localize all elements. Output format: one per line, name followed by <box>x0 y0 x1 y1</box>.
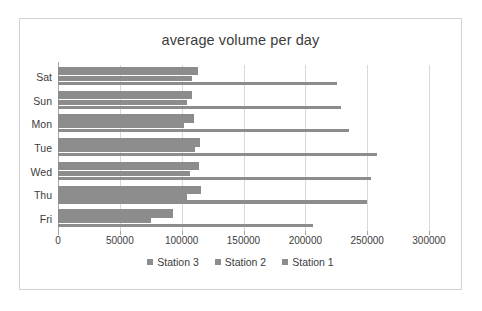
bar-station-3 <box>58 91 192 99</box>
y-axis-category-label: Mon <box>32 118 52 130</box>
legend-swatch-icon <box>215 259 221 265</box>
category-row: Mon <box>58 112 429 136</box>
bar-station-2 <box>58 218 151 223</box>
category-row: Thu <box>58 184 429 208</box>
legend-entry[interactable]: Station 3 <box>147 256 198 268</box>
bar-station-1 <box>58 82 337 85</box>
x-axis-tick-label: 50000 <box>106 235 134 246</box>
chart-title: average volume per day <box>20 32 461 48</box>
chart-container: average volume per day SatSunMonTueWedTh… <box>19 18 462 290</box>
legend-swatch-icon <box>147 259 153 265</box>
y-axis-category-label: Sun <box>33 95 52 107</box>
y-axis-category-label: Thu <box>34 189 52 201</box>
chart-legend: Station 3Station 2Station 1 <box>20 256 461 268</box>
category-row: Tue <box>58 136 429 160</box>
legend-entry[interactable]: Station 1 <box>282 256 333 268</box>
legend-entry[interactable]: Station 2 <box>215 256 266 268</box>
category-row: Sat <box>58 65 429 89</box>
x-axis-tick-label: 200000 <box>289 235 322 246</box>
bar-station-3 <box>58 114 194 122</box>
bar-station-2 <box>58 76 192 81</box>
bar-station-2 <box>58 123 184 128</box>
legend-swatch-icon <box>282 259 288 265</box>
x-axis-tick-label: 100000 <box>165 235 198 246</box>
y-axis-category-label: Sat <box>36 71 52 83</box>
bar-station-1 <box>58 200 367 203</box>
x-axis-labels: 050000100000150000200000250000300000 <box>58 235 429 249</box>
x-axis-tick-label: 150000 <box>227 235 260 246</box>
bar-station-1 <box>58 106 341 109</box>
y-axis-category-label: Wed <box>31 166 52 178</box>
bar-station-2 <box>58 194 187 199</box>
bar-station-1 <box>58 177 371 180</box>
bar-station-1 <box>58 224 313 227</box>
category-row: Sun <box>58 89 429 113</box>
bar-station-1 <box>58 153 377 156</box>
legend-label: Station 1 <box>292 256 333 268</box>
bar-station-3 <box>58 186 201 194</box>
plot-area: SatSunMonTueWedThuFri <box>58 65 429 231</box>
legend-label: Station 2 <box>225 256 266 268</box>
x-axis-tick-label: 0 <box>55 235 61 246</box>
legend-label: Station 3 <box>157 256 198 268</box>
bar-station-3 <box>58 138 200 146</box>
category-row: Fri <box>58 207 429 231</box>
category-row: Wed <box>58 160 429 184</box>
bar-station-2 <box>58 171 190 176</box>
y-axis-category-label: Fri <box>40 213 52 225</box>
bar-station-2 <box>58 147 195 152</box>
x-axis-tick-label: 300000 <box>412 235 445 246</box>
bar-station-2 <box>58 100 187 105</box>
bar-station-3 <box>58 209 173 217</box>
bar-station-3 <box>58 67 198 75</box>
y-axis-category-label: Tue <box>34 142 52 154</box>
bar-station-1 <box>58 129 349 132</box>
gridline <box>429 65 430 231</box>
bar-station-3 <box>58 162 199 170</box>
x-axis-tick-label: 250000 <box>350 235 383 246</box>
